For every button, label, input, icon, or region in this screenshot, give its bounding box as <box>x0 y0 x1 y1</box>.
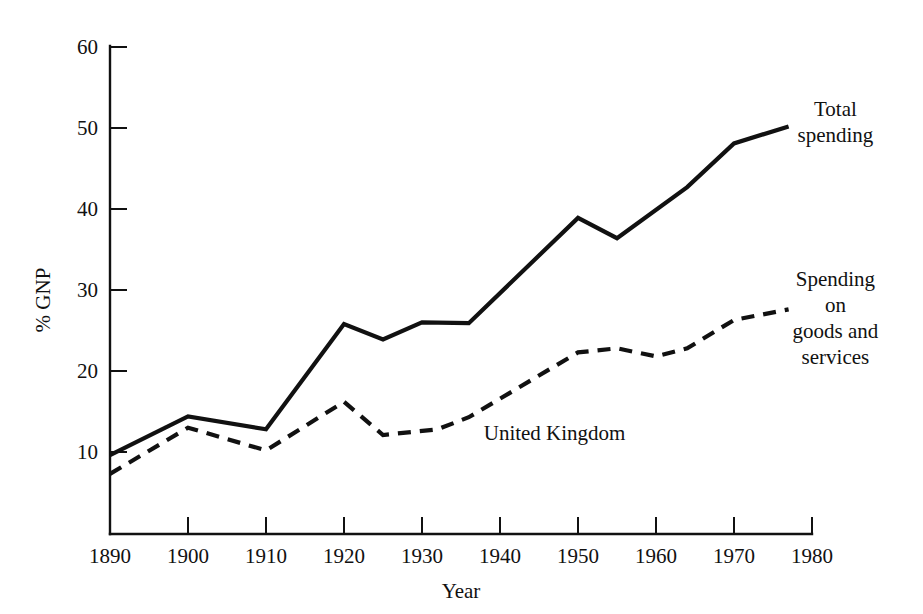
y-tick-label-20: 20 <box>77 359 98 383</box>
series-label-2: Spendingongoods andservices <box>793 267 879 369</box>
y-tick-label-30: 30 <box>77 278 98 302</box>
x-tick-label-1980: 1980 <box>791 544 833 568</box>
x-axis: 1890190019101920193019401950196019701980… <box>89 517 833 603</box>
line-chart: 102030405060 % GNP 189019001910192019301… <box>0 0 923 614</box>
y-tick-label-60: 60 <box>77 35 98 59</box>
x-tick-label-1960: 1960 <box>635 544 677 568</box>
y-tick-label-40: 40 <box>77 197 98 221</box>
series-label-line: goods and <box>793 319 879 343</box>
series-line-2 <box>110 309 789 474</box>
series-line-1 <box>110 126 789 455</box>
y-tick-label-10: 10 <box>77 440 98 464</box>
y-tick-label-group: 102030405060 <box>77 35 98 464</box>
x-tick-label-1970: 1970 <box>713 544 755 568</box>
series-group <box>110 126 789 474</box>
x-tick-label-1930: 1930 <box>401 544 443 568</box>
x-tick-label-1940: 1940 <box>479 544 521 568</box>
series-label-1: Totalspending <box>797 97 873 147</box>
x-tick-label-1920: 1920 <box>323 544 365 568</box>
x-axis-title: Year <box>442 579 481 603</box>
series-label-line: Total <box>814 97 857 121</box>
x-tick-label-1950: 1950 <box>557 544 599 568</box>
x-tick-label-group: 1890190019101920193019401950196019701980 <box>89 544 833 568</box>
series-label-line: Spending <box>796 267 876 291</box>
x-tick-label-1910: 1910 <box>245 544 287 568</box>
y-axis: 102030405060 % GNP <box>31 35 127 534</box>
x-tick-label-1890: 1890 <box>89 544 131 568</box>
x-tick-group <box>110 517 812 534</box>
y-axis-title: % GNP <box>31 268 55 333</box>
series-label-line: services <box>802 345 870 369</box>
chart-container: 102030405060 % GNP 189019001910192019301… <box>0 0 923 614</box>
annotation-group: United Kingdom <box>484 421 626 445</box>
series-label-line: on <box>825 293 847 317</box>
series-label-group: TotalspendingSpendingongoods andservices <box>793 97 879 369</box>
chart-annotation-1: United Kingdom <box>484 421 626 445</box>
y-tick-label-50: 50 <box>77 116 98 140</box>
series-label-line: spending <box>797 123 873 147</box>
y-tick-group <box>110 47 127 452</box>
x-tick-label-1900: 1900 <box>167 544 209 568</box>
